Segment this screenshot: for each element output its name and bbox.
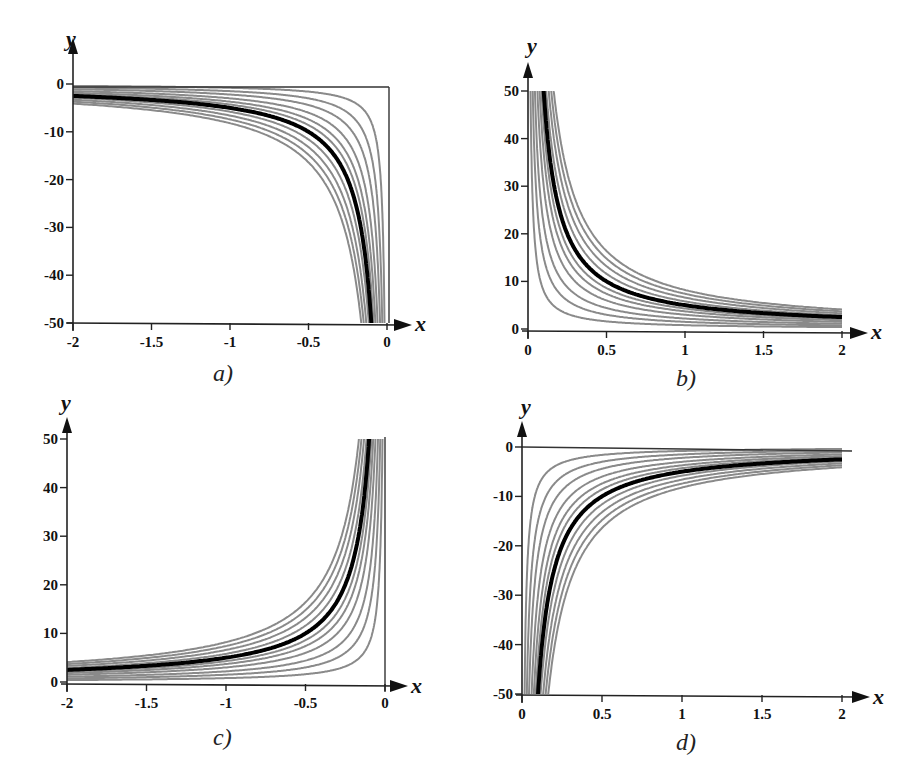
curve: [73, 100, 386, 333]
y-tick-label: 50: [504, 83, 519, 99]
curve: [523, 467, 842, 704]
x-tick-label: 2: [838, 706, 846, 722]
y-tick-label: 0: [506, 439, 514, 455]
x-tick-label: -0.5: [297, 334, 321, 350]
curves: [73, 86, 386, 333]
curve: [523, 463, 842, 704]
x-tick-label: 1: [681, 342, 689, 358]
x-tick-label: -1: [224, 334, 237, 350]
x-tick-label: 1.5: [754, 342, 773, 358]
y-tick-label: -20: [44, 172, 64, 188]
x-axis-label: x: [410, 673, 422, 698]
curve: [529, 82, 842, 314]
panel-a: yx-2-1.5-1-0.500-10-20-30-40-50: [44, 26, 426, 350]
curve: [529, 82, 842, 310]
curve: [529, 82, 842, 312]
y-tick-label: 40: [43, 480, 58, 496]
y-tick-label: -40: [44, 267, 64, 283]
x-axis: [522, 331, 858, 333]
x-axis: [516, 695, 860, 697]
y-tick-label: -50: [493, 686, 513, 702]
y-tick-label: -10: [44, 124, 64, 140]
x-axis-label: x: [870, 319, 882, 344]
curve: [529, 82, 842, 326]
panel-label-a: a): [213, 360, 233, 386]
curve: [73, 104, 386, 333]
curve: [523, 451, 842, 704]
y-axis-label: y: [63, 26, 76, 51]
y-tick-label: 10: [504, 273, 519, 289]
x-tick-label: 0: [383, 334, 391, 350]
y-tick-label: 50: [43, 431, 58, 447]
x-tick-label: 0.5: [597, 342, 616, 358]
x-axis-label: x: [414, 311, 426, 336]
y-tick-label: 0: [57, 76, 65, 92]
y-axis-arrow-icon: [517, 421, 527, 437]
y-tick-label: -30: [493, 587, 513, 603]
y-axis-arrow-icon: [62, 417, 72, 433]
panel-b: yx00.511.5250403020100: [504, 33, 882, 358]
y-tick-label: -10: [493, 488, 513, 504]
y-tick-label: -20: [493, 538, 513, 554]
x-tick-label: 0: [524, 342, 532, 358]
x-axis-arrow-icon: [852, 691, 870, 703]
x-tick-label: 2: [838, 342, 846, 358]
curve: [67, 429, 384, 678]
y-tick-label: 0: [51, 674, 59, 690]
x-axis: [61, 684, 398, 686]
curve: [67, 429, 384, 664]
y-tick-label: 0: [512, 321, 520, 337]
curve: [67, 429, 384, 662]
y-tick-label: -30: [44, 219, 64, 235]
curves: [67, 429, 384, 680]
y-tick-label: 30: [43, 528, 58, 544]
panel-label-c: c): [213, 724, 232, 750]
x-axis: [67, 323, 402, 325]
x-tick-label: -2: [61, 695, 74, 711]
y-axis-label: y: [518, 394, 531, 419]
y-tick-label: 30: [504, 178, 519, 194]
x-tick-label: 0: [518, 706, 526, 722]
y-tick-label: -50: [44, 315, 64, 331]
x-tick-label: 1: [678, 706, 686, 722]
panel-label-d: d): [676, 729, 696, 755]
curve: [67, 429, 384, 666]
curves: [523, 449, 842, 704]
x-axis-arrow-icon: [850, 327, 868, 339]
curve: [73, 88, 386, 333]
panel-d: yx00.511.520-10-20-30-40-50: [493, 394, 884, 722]
x-tick-label: -1: [220, 695, 233, 711]
x-axis-arrow-icon: [394, 319, 412, 331]
y-axis-label: y: [524, 33, 537, 58]
x-tick-label: -2: [67, 334, 80, 350]
y-tick-label: 20: [504, 226, 519, 242]
y-tick-label: 20: [43, 577, 58, 593]
curves: [529, 82, 842, 328]
y-axis-arrow-icon: [523, 62, 533, 78]
x-tick-label: 1.5: [753, 706, 772, 722]
y-tick-label: -40: [493, 637, 513, 653]
curve: [73, 102, 386, 333]
x-axis-arrow-icon: [390, 680, 408, 692]
panel-label-b: b): [676, 365, 696, 391]
panel-c: yx-2-1.5-1-0.5050403020100: [43, 390, 422, 711]
y-tick-label: 10: [43, 625, 58, 641]
x-axis-label: x: [872, 684, 884, 709]
x-tick-label: -0.5: [294, 695, 318, 711]
y-tick-label: 40: [504, 131, 519, 147]
y-axis-label: y: [58, 390, 71, 415]
x-tick-label: 0: [381, 695, 389, 711]
curve: [523, 465, 842, 704]
x-tick-label: -1.5: [135, 695, 159, 711]
x-tick-label: 0.5: [593, 706, 612, 722]
figure: yx-2-1.5-1-0.500-10-20-30-40-50 yx00.511…: [0, 0, 911, 781]
x-tick-label: -1.5: [140, 334, 164, 350]
